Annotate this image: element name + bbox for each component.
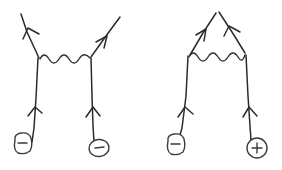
charge-badge-plus — [247, 138, 267, 158]
figure-canvas: Feynman diagrams electron-electron-scatt… — [0, 0, 282, 170]
outgoing-electron-left-arrowhead — [23, 28, 39, 39]
photon-propagator-wavy — [189, 53, 245, 61]
right-diagram — [167, 12, 267, 158]
charge-badge-minus-left — [14, 133, 31, 154]
outgoing-fermion-right-line — [219, 12, 245, 53]
left-diagram — [14, 14, 120, 157]
incoming-positron-line — [246, 55, 251, 140]
incoming-electron-left-line — [32, 58, 38, 142]
charge-badge-minus-right — [88, 139, 110, 158]
photon-propagator-wavy — [40, 55, 90, 63]
incoming-electron-arrowhead — [178, 107, 193, 117]
minus-sign-icon — [95, 147, 104, 148]
outgoing-fermion-left-line — [190, 13, 216, 55]
charge-badge-minus — [167, 134, 184, 155]
feynman-diagram-figure — [0, 0, 282, 170]
incoming-electron-line — [178, 56, 188, 142]
incoming-electron-right-line — [91, 58, 94, 141]
